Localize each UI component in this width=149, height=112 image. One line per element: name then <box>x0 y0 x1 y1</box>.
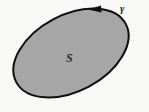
region-boundary-ellipse <box>0 0 144 112</box>
figure-canvas: S γ <box>0 0 149 112</box>
figure-svg <box>0 0 149 112</box>
